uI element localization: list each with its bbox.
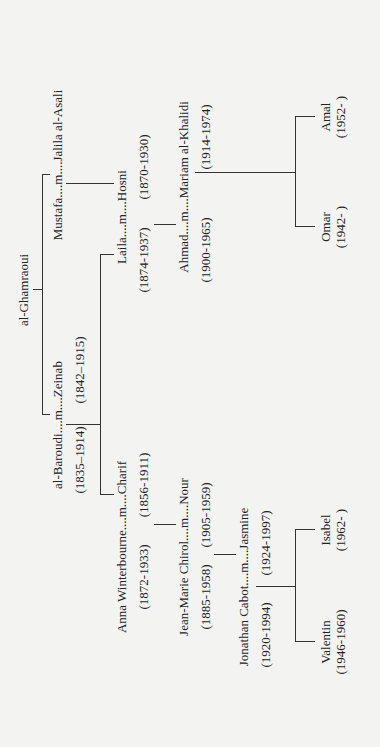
dates-baroudi: (1835–1914) bbox=[72, 426, 87, 493]
family-tree-page: al-Ghamraoui al-Baroudi....m....Zeinab (… bbox=[0, 0, 380, 747]
connector bbox=[295, 116, 315, 117]
connector bbox=[100, 254, 114, 255]
person-name: Omar bbox=[318, 206, 333, 248]
couple-label: Laila....m....Hosni bbox=[114, 170, 129, 264]
connector bbox=[42, 414, 50, 415]
dates-nour: (1905-1959) bbox=[198, 483, 213, 548]
connector bbox=[66, 424, 100, 425]
dates-ahmad: (1900-1965) bbox=[198, 218, 213, 283]
family-tree-diagram: al-Ghamraoui al-Baroudi....m....Zeinab (… bbox=[0, 0, 380, 747]
person-amal: Amal (1952- ) bbox=[318, 96, 348, 138]
person-dates: (1952- ) bbox=[333, 96, 348, 138]
connector bbox=[154, 524, 176, 525]
person-name: Amal bbox=[318, 96, 333, 138]
dates-zeinab: (1842–1915) bbox=[72, 336, 87, 403]
couple-laila-hosni: Laila....m....Hosni bbox=[114, 170, 129, 264]
person-name: Valentin bbox=[318, 610, 333, 675]
person-omar: Omar (1942- ) bbox=[318, 206, 348, 248]
connector bbox=[66, 183, 114, 184]
connector bbox=[295, 530, 296, 642]
person-isabel: Isabel (1962- ) bbox=[318, 509, 348, 551]
person-dates: (1946-1960) bbox=[333, 610, 348, 675]
dates-jeanmarie: (1885-1958) bbox=[198, 565, 213, 630]
connector bbox=[295, 641, 315, 642]
couple-label: Mustafa....m....Jalila al-Asali bbox=[50, 90, 65, 241]
connector bbox=[214, 554, 236, 555]
person-name: Isabel bbox=[318, 509, 333, 551]
person-dates: (1962- ) bbox=[333, 509, 348, 551]
connector bbox=[195, 172, 295, 173]
couple-label: Anna Winterbourne....m....Charif bbox=[114, 461, 129, 633]
dates-jasmine: (1924-1997) bbox=[258, 511, 273, 576]
couple-label: al-Baroudi....m....Zeinab bbox=[50, 361, 65, 489]
connector bbox=[295, 226, 315, 227]
connector bbox=[295, 117, 296, 227]
person-valentin: Valentin (1946-1960) bbox=[318, 610, 348, 675]
couple-ahmad-mariam: Ahmad....m....Mariam al-Khalidi bbox=[176, 101, 191, 273]
root-name: al-Ghamraoui bbox=[16, 254, 31, 326]
root-ancestor: al-Ghamraoui bbox=[16, 254, 31, 326]
dates-mariam: (1914-1974) bbox=[198, 105, 213, 170]
couple-label: Ahmad....m....Mariam al-Khalidi bbox=[176, 101, 191, 273]
dates-jonathan: (1920-1994) bbox=[258, 603, 273, 668]
person-dates: (1942- ) bbox=[333, 206, 348, 248]
dates-hosni: (1870-1930) bbox=[136, 135, 151, 200]
connector bbox=[42, 174, 50, 175]
connector bbox=[100, 255, 101, 495]
couple-anna-charif: Anna Winterbourne....m....Charif bbox=[114, 461, 129, 633]
couple-label: Jean-Marie Chirol....m....Nour bbox=[176, 478, 191, 636]
connector bbox=[154, 224, 176, 225]
connector bbox=[42, 175, 43, 415]
couple-baroudi-zeinab: al-Baroudi....m....Zeinab bbox=[50, 361, 65, 489]
couple-jonathan-jasmine: Jonathan Cabot....m....Jasmine bbox=[236, 508, 251, 667]
connector bbox=[256, 586, 295, 587]
connector bbox=[295, 529, 315, 530]
couple-jeanmarie-nour: Jean-Marie Chirol....m....Nour bbox=[176, 478, 191, 636]
dates-charif: (1856-1911) bbox=[136, 453, 151, 518]
connector bbox=[100, 494, 114, 495]
dates-anna: (1872-1933) bbox=[136, 545, 151, 610]
couple-label: Jonathan Cabot....m....Jasmine bbox=[236, 508, 251, 667]
couple-mustafa-jalila: Mustafa....m....Jalila al-Asali bbox=[50, 90, 65, 241]
connector bbox=[33, 289, 42, 290]
dates-laila: (1874-1937) bbox=[136, 228, 151, 293]
